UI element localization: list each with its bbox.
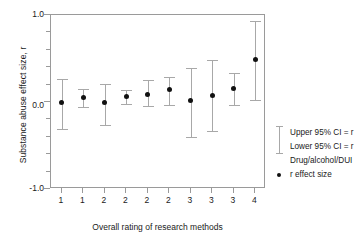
data-point-marker: [253, 57, 258, 62]
error-bar-lower-cap: [57, 129, 68, 130]
data-point-marker: [124, 94, 129, 99]
error-bar-upper-icon: [279, 126, 280, 140]
data-point-marker: [188, 98, 193, 103]
legend-item-group: Drug/alcohol/DUI: [276, 154, 362, 168]
x-tick-label: 3: [201, 196, 221, 205]
x-tick: [147, 188, 148, 193]
x-tick-label: 4: [244, 196, 264, 205]
x-tick-label: 2: [137, 196, 157, 205]
x-tick-label: 3: [180, 196, 200, 205]
error-bar-lower-cap: [229, 105, 240, 106]
legend-label-effect-size: r effect size: [290, 168, 332, 182]
legend-item-upper-ci: Upper 95% CI = r: [276, 126, 362, 140]
x-tick: [82, 188, 83, 193]
error-bar-upper-cap: [250, 21, 261, 22]
error-bar-upper-cap: [121, 90, 132, 91]
error-bar-upper-cap: [143, 80, 154, 81]
error-bar-lower-cap: [186, 137, 197, 138]
data-point-marker: [81, 95, 86, 100]
x-tick-label: 2: [115, 196, 135, 205]
error-bar-lower-icon: [279, 140, 280, 154]
error-bar-upper-cap: [207, 60, 218, 61]
error-bar-lower-cap: [164, 105, 175, 106]
legend-label-group: Drug/alcohol/DUI: [290, 154, 352, 168]
x-tick: [190, 188, 191, 193]
error-bar-lower-cap: [100, 125, 111, 126]
data-point-marker: [102, 100, 107, 105]
y-tick-label-0: 0.0: [4, 101, 44, 110]
plot-area: [50, 14, 265, 188]
legend-item-lower-ci: Lower 95% CI = r: [276, 140, 362, 154]
legend-label-lower-ci: Lower 95% CI = r: [290, 140, 353, 154]
x-tick: [211, 188, 212, 193]
legend-item-effect-size: r effect size: [276, 168, 362, 182]
error-bar-lower-cap: [250, 100, 261, 101]
x-tick-label: 1: [51, 196, 71, 205]
error-bar-lower-cap: [207, 131, 218, 132]
x-tick: [61, 188, 62, 193]
x-tick-label: 3: [223, 196, 243, 205]
data-point-marker: [231, 86, 236, 91]
y-tick-label-minus1: -1.0: [4, 184, 44, 193]
x-axis-title: Overall rating of research methods: [50, 222, 265, 232]
x-tick-label: 2: [94, 196, 114, 205]
data-point-marker: [210, 93, 215, 98]
data-point-marker: [145, 92, 150, 97]
y-tick-label-1: 1.0: [4, 10, 44, 19]
x-tick: [125, 188, 126, 193]
series-layer: [51, 15, 264, 187]
error-bar-lower-cap: [143, 106, 154, 107]
error-bar-chart: Substance abuse effect size, r 1.0 0.0 -…: [0, 0, 362, 238]
x-tick: [168, 188, 169, 193]
x-tick-label: 2: [158, 196, 178, 205]
y-tick-major: [44, 188, 50, 189]
error-bar-lower-cap: [121, 104, 132, 105]
x-tick: [254, 188, 255, 193]
x-tick-label: 1: [72, 196, 92, 205]
error-bar-upper-cap: [57, 79, 68, 80]
data-point-marker: [167, 87, 172, 92]
legend: Upper 95% CI = r Lower 95% CI = r Drug/a…: [276, 126, 362, 182]
error-bar-lower-cap: [78, 107, 89, 108]
legend-label-upper-ci: Upper 95% CI = r: [290, 126, 353, 140]
error-bar-upper-cap: [186, 68, 197, 69]
error-bar-upper-cap: [78, 89, 89, 90]
marker-dot-icon: [277, 173, 281, 177]
error-bar-upper-cap: [229, 73, 240, 74]
error-bar-upper-cap: [164, 77, 175, 78]
data-point-marker: [59, 100, 64, 105]
x-tick: [233, 188, 234, 193]
x-tick: [104, 188, 105, 193]
error-bar-upper-cap: [100, 84, 111, 85]
